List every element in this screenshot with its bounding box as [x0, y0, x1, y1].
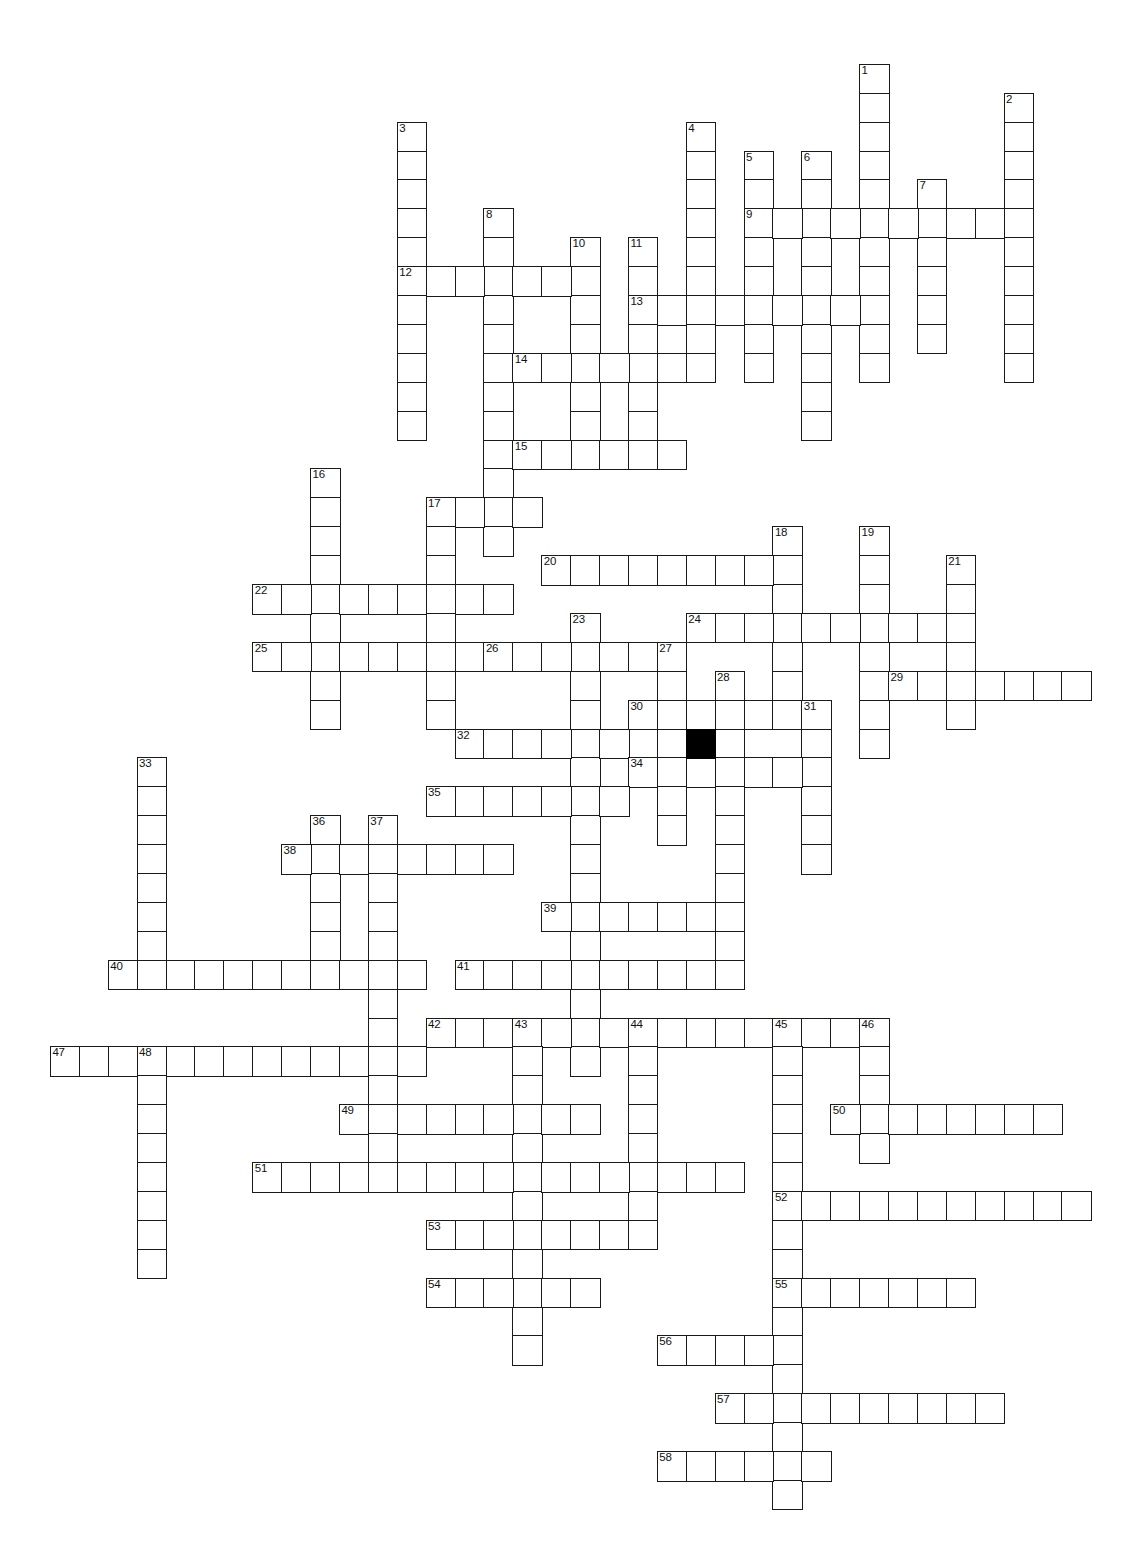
- crossword-cell[interactable]: 39: [541, 902, 572, 933]
- crossword-cell[interactable]: [455, 266, 486, 297]
- crossword-cell[interactable]: [975, 1393, 1006, 1424]
- crossword-cell[interactable]: [397, 295, 428, 326]
- crossword-cell[interactable]: [946, 1393, 977, 1424]
- crossword-cell[interactable]: [628, 902, 659, 933]
- crossword-cell[interactable]: 42: [426, 1018, 457, 1049]
- crossword-cell[interactable]: [1004, 179, 1035, 210]
- crossword-cell[interactable]: [79, 1046, 110, 1077]
- crossword-cell[interactable]: [137, 931, 168, 962]
- crossword-cell[interactable]: [310, 671, 341, 702]
- crossword-cell[interactable]: [772, 1220, 803, 1251]
- crossword-cell[interactable]: [715, 931, 746, 962]
- crossword-cell[interactable]: [859, 295, 890, 326]
- crossword-cell[interactable]: 43: [512, 1018, 543, 1049]
- crossword-cell[interactable]: [917, 324, 948, 355]
- crossword-cell[interactable]: [859, 237, 890, 268]
- crossword-cell[interactable]: [1004, 1191, 1035, 1222]
- crossword-cell[interactable]: [801, 815, 832, 846]
- crossword-cell[interactable]: 26: [483, 642, 514, 673]
- crossword-cell[interactable]: [744, 700, 775, 731]
- crossword-cell[interactable]: [772, 1393, 803, 1424]
- crossword-cell[interactable]: [917, 1191, 948, 1222]
- crossword-cell[interactable]: [194, 1046, 225, 1077]
- crossword-cell[interactable]: [859, 613, 890, 644]
- crossword-cell[interactable]: [426, 1104, 457, 1135]
- crossword-cell[interactable]: [483, 295, 514, 326]
- crossword-cell[interactable]: [570, 411, 601, 442]
- crossword-cell[interactable]: [483, 960, 514, 991]
- crossword-cell[interactable]: [194, 960, 225, 991]
- crossword-cell[interactable]: [599, 729, 630, 760]
- crossword-cell[interactable]: [715, 1162, 746, 1193]
- crossword-cell[interactable]: [715, 1335, 746, 1366]
- crossword-cell[interactable]: [1061, 671, 1092, 702]
- crossword-cell[interactable]: 31: [801, 700, 832, 731]
- crossword-cell[interactable]: [570, 440, 601, 471]
- crossword-cell[interactable]: [570, 382, 601, 413]
- crossword-cell[interactable]: [657, 1018, 688, 1049]
- crossword-cell[interactable]: [541, 1278, 572, 1309]
- crossword-cell[interactable]: [686, 266, 717, 297]
- crossword-cell[interactable]: [397, 411, 428, 442]
- crossword-cell[interactable]: [310, 497, 341, 528]
- crossword-cell[interactable]: [859, 729, 890, 760]
- crossword-cell[interactable]: [137, 1104, 168, 1135]
- crossword-cell[interactable]: [310, 526, 341, 557]
- crossword-cell[interactable]: 14: [512, 353, 543, 384]
- crossword-cell[interactable]: [772, 1335, 803, 1366]
- crossword-cell[interactable]: [859, 353, 890, 384]
- crossword-cell[interactable]: [570, 555, 601, 586]
- crossword-cell[interactable]: [888, 1191, 919, 1222]
- crossword-cell[interactable]: [859, 93, 890, 124]
- crossword-cell[interactable]: [715, 786, 746, 817]
- crossword-cell[interactable]: [252, 960, 283, 991]
- crossword-cell[interactable]: [570, 844, 601, 875]
- crossword-cell[interactable]: [368, 873, 399, 904]
- crossword-cell[interactable]: [512, 1104, 543, 1135]
- crossword-cell[interactable]: [657, 700, 688, 731]
- crossword-cell[interactable]: [917, 266, 948, 297]
- crossword-cell[interactable]: [599, 960, 630, 991]
- crossword-cell[interactable]: [801, 1393, 832, 1424]
- crossword-cell[interactable]: [426, 1162, 457, 1193]
- crossword-cell[interactable]: [830, 1393, 861, 1424]
- crossword-cell[interactable]: [599, 1220, 630, 1251]
- crossword-cell[interactable]: [368, 931, 399, 962]
- crossword-cell[interactable]: 29: [888, 671, 919, 702]
- crossword-cell[interactable]: [657, 960, 688, 991]
- crossword-cell[interactable]: [859, 642, 890, 673]
- crossword-cell[interactable]: 7: [917, 179, 948, 210]
- crossword-cell[interactable]: [599, 786, 630, 817]
- crossword-cell[interactable]: [397, 382, 428, 413]
- crossword-cell[interactable]: [830, 1018, 861, 1049]
- crossword-cell[interactable]: 40: [108, 960, 139, 991]
- crossword-cell[interactable]: [483, 237, 514, 268]
- crossword-cell[interactable]: [657, 902, 688, 933]
- crossword-cell[interactable]: [310, 873, 341, 904]
- crossword-cell[interactable]: [570, 757, 601, 788]
- crossword-cell[interactable]: [368, 642, 399, 673]
- crossword-cell[interactable]: [310, 642, 341, 673]
- crossword-cell[interactable]: 50: [830, 1104, 861, 1135]
- crossword-cell[interactable]: [859, 555, 890, 586]
- crossword-cell[interactable]: [483, 584, 514, 615]
- crossword-cell[interactable]: [715, 700, 746, 731]
- crossword-cell[interactable]: [137, 1249, 168, 1280]
- crossword-cell[interactable]: 28: [715, 671, 746, 702]
- crossword-cell[interactable]: [772, 1046, 803, 1077]
- crossword-cell[interactable]: [281, 1162, 312, 1193]
- crossword-cell[interactable]: [744, 1018, 775, 1049]
- crossword-cell[interactable]: [772, 1104, 803, 1135]
- crossword-cell[interactable]: [801, 382, 832, 413]
- crossword-cell[interactable]: [541, 642, 572, 673]
- crossword-cell[interactable]: [541, 266, 572, 297]
- crossword-cell[interactable]: [599, 1018, 630, 1049]
- crossword-cell[interactable]: 20: [541, 555, 572, 586]
- crossword-cell[interactable]: 53: [426, 1220, 457, 1251]
- crossword-cell[interactable]: [397, 237, 428, 268]
- crossword-cell[interactable]: [830, 295, 861, 326]
- crossword-cell[interactable]: [426, 266, 457, 297]
- crossword-cell[interactable]: [483, 353, 514, 384]
- crossword-cell[interactable]: [455, 497, 486, 528]
- crossword-cell[interactable]: 33: [137, 757, 168, 788]
